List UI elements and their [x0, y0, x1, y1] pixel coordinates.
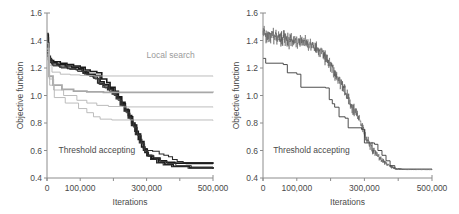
plot-annotation: Threshold accepting: [273, 145, 350, 155]
chart-panel-left: 0.40.60.81.01.21.41.60100,000300,000500,…: [0, 0, 230, 214]
y-tick-label: 0.8: [246, 118, 258, 128]
y-tick-label: 1.6: [246, 8, 258, 18]
x-tick-label: 300,000: [349, 183, 380, 193]
chart-svg-left: 0.40.60.81.01.21.41.60100,000300,000500,…: [0, 0, 230, 214]
x-tick-label: 0: [261, 183, 266, 193]
x-tick-label: 0: [45, 183, 50, 193]
y-tick-label: 1.0: [246, 91, 258, 101]
y-axis-title: Objective function: [15, 61, 25, 129]
y-tick-label: 0.6: [246, 146, 258, 156]
y-tick-label: 1.6: [30, 8, 42, 18]
plot-annotation: Threshold accepting: [59, 145, 136, 155]
y-tick-label: 1.0: [30, 91, 42, 101]
y-tick-label: 1.2: [30, 63, 42, 73]
x-axis-title: Iterations: [113, 197, 148, 207]
x-tick-label: 100,000: [65, 183, 96, 193]
y-tick-label: 0.6: [30, 146, 42, 156]
y-tick-label: 1.2: [246, 63, 258, 73]
chart-panel-right: 0.40.60.81.01.21.41.60100,000300,000500,…: [230, 0, 459, 214]
y-tick-label: 0.8: [30, 118, 42, 128]
series-line: [47, 43, 213, 76]
x-tick-label: 500,000: [417, 183, 448, 193]
series-line: [47, 52, 213, 108]
y-tick-label: 0.4: [246, 173, 258, 183]
x-tick-label: 300,000: [131, 183, 162, 193]
x-tick-label: 100,000: [281, 183, 312, 193]
y-tick-label: 0.4: [30, 173, 42, 183]
y-axis-title: Objective function: [231, 61, 241, 129]
plot-annotation: Local search: [147, 50, 195, 60]
x-axis-title: Iterations: [330, 197, 365, 207]
figure-root: 0.40.60.81.01.21.41.60100,000300,000500,…: [0, 0, 459, 214]
y-tick-label: 1.4: [246, 36, 258, 46]
y-tick-label: 1.4: [30, 36, 42, 46]
chart-svg-right: 0.40.60.81.01.21.41.60100,000300,000500,…: [230, 0, 459, 214]
x-tick-label: 500,000: [198, 183, 229, 193]
